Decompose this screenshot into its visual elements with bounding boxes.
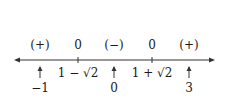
- left-arrow-icon: [14, 58, 20, 63]
- test-point-label: 0: [110, 82, 118, 94]
- critical-point-label: 1 − √2: [58, 67, 99, 79]
- sign-label: (+): [179, 39, 198, 51]
- critical-point-label: 1 + √2: [132, 67, 173, 79]
- up-arrow-icon: [187, 66, 192, 78]
- sign-label: 0: [148, 39, 156, 51]
- sign-label: 0: [74, 39, 82, 51]
- test-point-label: 3: [185, 82, 193, 94]
- right-arrow-icon: [209, 58, 215, 63]
- up-arrow-icon: [112, 66, 117, 78]
- sign-label: (+): [30, 39, 49, 51]
- up-arrow-icon: [38, 66, 43, 78]
- test-point-label: −1: [31, 82, 49, 94]
- sign-label: (−): [104, 39, 123, 51]
